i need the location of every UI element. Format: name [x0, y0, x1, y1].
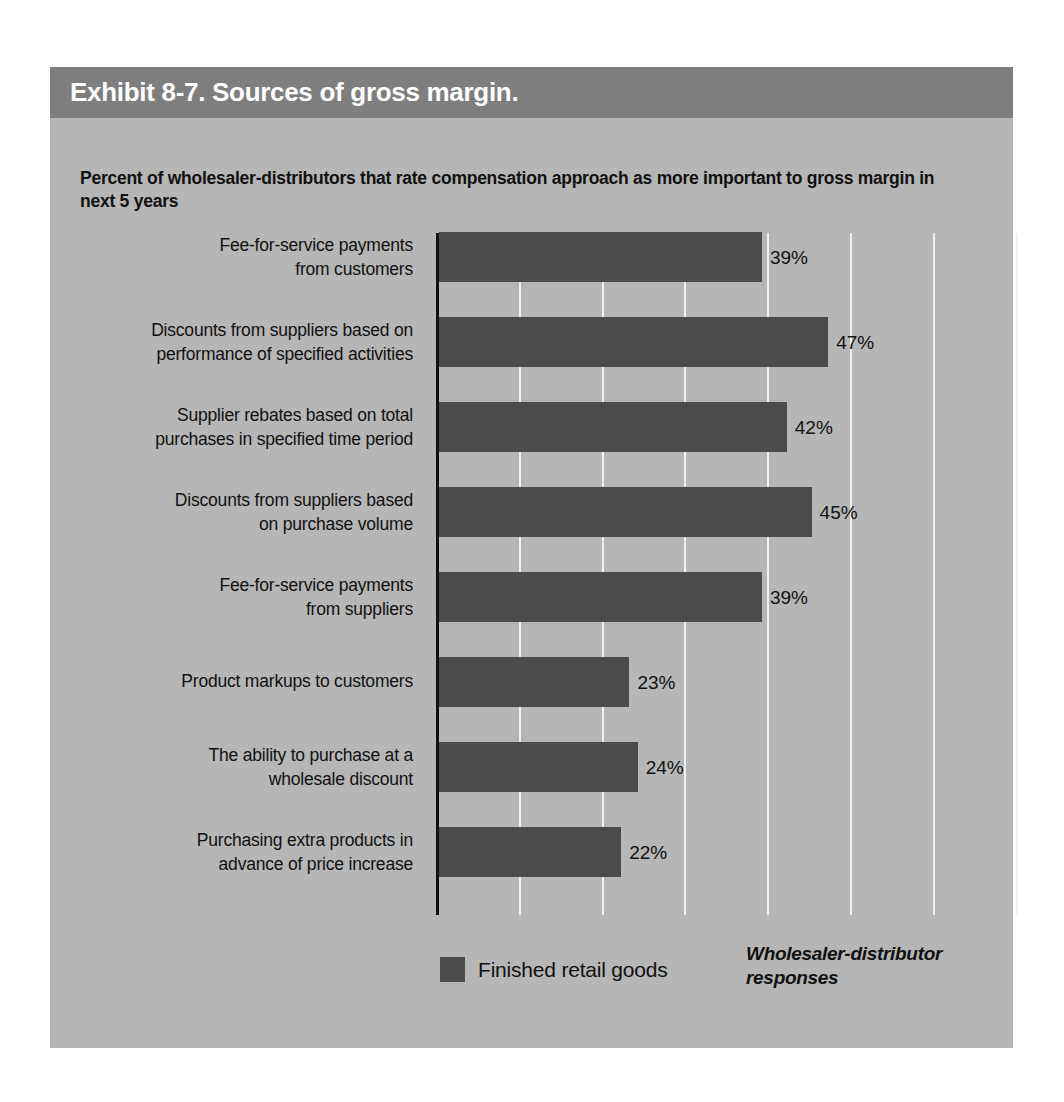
- exhibit-panel: Exhibit 8-7. Sources of gross margin. Pe…: [50, 67, 1013, 1048]
- bar-rect: [439, 742, 638, 792]
- bar-value-label: 42%: [795, 417, 833, 439]
- bar-row: Purchasing extra products inadvance of p…: [50, 825, 1013, 910]
- bar-value-label: 45%: [820, 502, 858, 524]
- bar-row: Product markups to customers23%: [50, 655, 1013, 740]
- bar-rect: [439, 232, 762, 282]
- bar-category-label: The ability to purchase at awholesale di…: [83, 743, 413, 791]
- bar-category-label: Fee-for-service paymentsfrom customers: [83, 233, 413, 281]
- bar-row: Fee-for-service paymentsfrom suppliers39…: [50, 570, 1013, 655]
- bar-category-label: Fee-for-service paymentsfrom suppliers: [83, 573, 413, 621]
- bar-row: Supplier rebates based on totalpurchases…: [50, 400, 1013, 485]
- bar-value-label: 39%: [770, 247, 808, 269]
- bar-rect: [439, 317, 828, 367]
- chart-subtitle: Percent of wholesaler-distributors that …: [80, 167, 960, 213]
- bar-rect: [439, 657, 629, 707]
- chart-plot-area: Fee-for-service paymentsfrom customers39…: [50, 230, 1013, 920]
- chart-legend: Finished retail goods: [440, 957, 668, 982]
- legend-label-finished-retail-goods: Finished retail goods: [478, 958, 668, 982]
- bar-value-label: 24%: [646, 757, 684, 779]
- bar-value-label: 47%: [836, 332, 874, 354]
- bar-category-label: Supplier rebates based on totalpurchases…: [83, 403, 413, 451]
- exhibit-title-bar: Exhibit 8-7. Sources of gross margin.: [50, 67, 1013, 118]
- bar-value-label: 22%: [629, 842, 667, 864]
- gridline-70: [1016, 233, 1018, 915]
- bar-row: Discounts from suppliers basedon purchas…: [50, 485, 1013, 570]
- bar-row: The ability to purchase at awholesale di…: [50, 740, 1013, 825]
- bar-row: Discounts from suppliers based onperform…: [50, 315, 1013, 400]
- bar-category-label: Discounts from suppliers basedon purchas…: [83, 488, 413, 536]
- exhibit-title: Exhibit 8-7. Sources of gross margin.: [70, 77, 518, 108]
- source-note: Wholesaler-distributor responses: [746, 942, 986, 990]
- bar-category-label: Product markups to customers: [83, 669, 413, 693]
- bar-rect: [439, 487, 812, 537]
- bar-category-label: Purchasing extra products inadvance of p…: [83, 828, 413, 876]
- bar-rect: [439, 402, 787, 452]
- bar-rect: [439, 572, 762, 622]
- bar-category-label: Discounts from suppliers based onperform…: [83, 318, 413, 366]
- legend-swatch-finished-retail-goods: [440, 957, 465, 982]
- bar-value-label: 39%: [770, 587, 808, 609]
- bar-row: Fee-for-service paymentsfrom customers39…: [50, 230, 1013, 315]
- bar-value-label: 23%: [637, 672, 675, 694]
- bar-rect: [439, 827, 621, 877]
